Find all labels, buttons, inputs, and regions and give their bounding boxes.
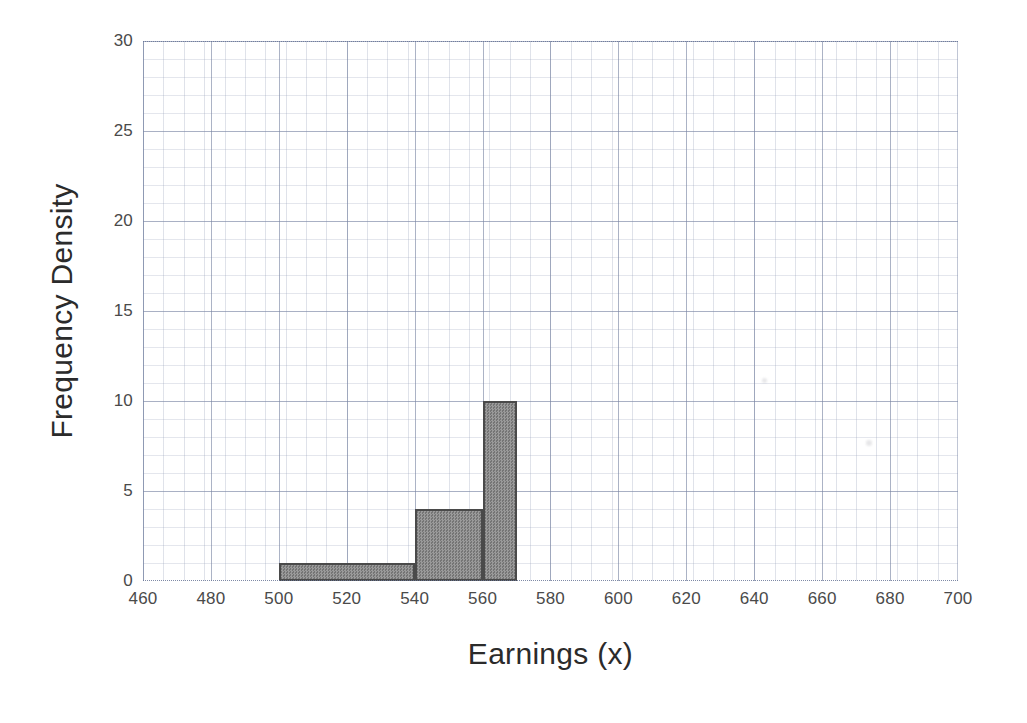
smudge-right-upper	[762, 378, 767, 383]
x-tick-label: 700	[944, 589, 973, 609]
y-tick-label: 0	[123, 571, 133, 591]
y-tick-label: 20	[114, 211, 133, 231]
y-tick-label: 15	[114, 301, 133, 321]
histogram-bar	[483, 401, 517, 581]
plot-frame-left	[143, 41, 144, 581]
y-tick-label: 5	[123, 481, 133, 501]
x-tick-label: 660	[808, 589, 837, 609]
x-tick-label: 480	[196, 589, 225, 609]
plot-frame-top	[143, 41, 958, 42]
histogram-bar	[415, 509, 483, 581]
plot-area	[143, 41, 958, 581]
major-gridlines	[143, 41, 958, 581]
x-tick-label: 540	[400, 589, 429, 609]
x-tick-label: 500	[264, 589, 293, 609]
x-tick-label: 640	[740, 589, 769, 609]
x-axis-line	[143, 580, 958, 581]
x-tick-label: 620	[672, 589, 701, 609]
smudge-right-lower	[866, 440, 872, 446]
x-tick-label: 580	[536, 589, 565, 609]
y-tick-label: 10	[114, 391, 133, 411]
histogram-chart: 460480500520540560580600620640660680700 …	[0, 0, 1027, 723]
histogram-bar	[279, 563, 415, 581]
x-tick-label: 600	[604, 589, 633, 609]
plot-frame-right	[957, 41, 958, 581]
y-tick-label: 30	[114, 31, 133, 51]
y-axis-title: Frequency Density	[40, 41, 84, 581]
x-tick-label: 680	[876, 589, 905, 609]
x-axis-title: Earnings (x)	[143, 637, 958, 671]
x-tick-label: 560	[468, 589, 497, 609]
x-tick-label: 520	[332, 589, 361, 609]
y-tick-label: 25	[114, 121, 133, 141]
